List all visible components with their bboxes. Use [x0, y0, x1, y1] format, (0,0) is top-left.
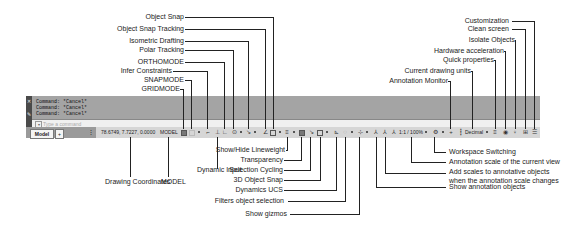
callout-snapmode: SNAPMODE [144, 76, 184, 84]
show-annotation-icon[interactable]: ⅄ [373, 129, 379, 135]
workspace-dropdown-icon[interactable] [442, 131, 444, 133]
drawing-coordinates[interactable]: 78.6749, 7.7227, 0.0000 [101, 128, 155, 137]
callout-filters-object-selection: Filters object selection [215, 197, 284, 205]
leader-line [411, 162, 446, 163]
leader-line [185, 29, 265, 30]
grip-handle-icon[interactable]: ⋮ [88, 129, 94, 135]
object-snap-dropdown-icon[interactable] [279, 131, 281, 133]
leader-line [434, 137, 435, 152]
isolate-objects-icon[interactable]: ♀ [512, 129, 518, 135]
leader-line [512, 29, 525, 30]
leader-line [191, 80, 192, 129]
isometric-drafting-icon[interactable]: ↘ [245, 129, 251, 135]
units-separator-icon: ┇ [458, 129, 464, 135]
leader-line [534, 21, 535, 129]
callout-customization: Customization [465, 17, 509, 25]
leader-line [525, 29, 526, 129]
gizmo-icon[interactable]: ⊹ [357, 129, 363, 135]
model-space-toggle[interactable]: MODEL [160, 128, 178, 137]
callout-show-annotation-objects: Show annotation objects [449, 183, 525, 191]
polar-dropdown-icon[interactable] [240, 131, 242, 133]
callout-show-hide-lineweight: Show/Hide Lineweight [216, 146, 285, 154]
callout-annotation-monitor: Annotation Monitor [389, 77, 448, 85]
callout-transparency: Transparency [240, 156, 283, 164]
leader-line [385, 137, 386, 173]
annotation-scale-value[interactable]: 1:1 / 100% [399, 128, 423, 137]
command-history-line: Command: *Cancel* [36, 111, 87, 117]
close-icon[interactable]: ✕ [27, 97, 31, 105]
leader-line [224, 62, 225, 129]
leader-line [376, 187, 446, 188]
lineweight-icon[interactable]: ≡ [284, 129, 290, 135]
leader-line [185, 62, 224, 63]
leader-line [385, 173, 446, 174]
callout-workspace-switching: Workspace Switching [449, 148, 516, 156]
tab-model[interactable]: Model [30, 129, 54, 139]
clean-screen-icon[interactable]: ⊞ [522, 129, 528, 135]
leader-line [290, 214, 360, 215]
callout-gridmode: GRIDMODE [142, 85, 181, 93]
leader-line [472, 71, 473, 129]
filter-selection-icon[interactable]: ◌ [342, 129, 348, 135]
isometric-dropdown-icon[interactable] [254, 131, 256, 133]
filter-dropdown-icon[interactable] [351, 131, 353, 133]
quick-properties-icon[interactable]: ≡ [492, 129, 498, 135]
dynamic-ucs-icon[interactable]: ⊾ [333, 129, 339, 135]
infer-constraints-icon[interactable]: ⌐ [205, 129, 211, 135]
callout-current-drawing-units: Current drawing units [404, 67, 471, 75]
leader-line [284, 160, 302, 161]
leader-line [207, 71, 208, 129]
add-layout-button[interactable]: + [55, 129, 64, 139]
callout-isometric-drafting: Isometric Drafting [129, 37, 184, 45]
dynamic-input-icon[interactable]: ⊥ [214, 129, 220, 135]
snap-mode-icon[interactable] [189, 130, 195, 136]
3d-snap-dropdown-icon[interactable] [326, 131, 328, 133]
callout-isolate-objects: Isolate Objects [469, 36, 515, 44]
units-dropdown-icon[interactable] [486, 131, 488, 133]
scale-dropdown-icon[interactable] [425, 131, 427, 133]
annotation-monitor-icon[interactable]: + [448, 129, 454, 135]
gizmo-dropdown-icon[interactable] [366, 131, 368, 133]
annotation-scale-icon[interactable]: ⅄ [391, 129, 397, 135]
leader-line [288, 201, 346, 202]
leader-line [512, 21, 534, 22]
snap-dropdown-icon[interactable] [198, 131, 200, 133]
leader-line [301, 137, 302, 161]
leader-line [411, 137, 412, 162]
wrench-icon[interactable]: ✎ [27, 110, 31, 118]
workspace-gear-icon[interactable]: ⚙ [432, 129, 438, 135]
3d-object-snap-icon[interactable] [317, 130, 323, 136]
selection-cycling-icon[interactable]: ↘ [308, 129, 314, 135]
leader-line [284, 190, 337, 191]
lineweight-dropdown-icon[interactable] [293, 131, 295, 133]
leader-line [345, 137, 346, 202]
leader-line [284, 170, 311, 171]
grid-icon[interactable] [181, 130, 187, 136]
transparency-icon[interactable] [299, 130, 305, 136]
leader-line [515, 40, 516, 129]
leader-line [376, 137, 377, 187]
callout-add-scales-line1: Add scales to annotative objects [449, 168, 549, 176]
callout-selection-cycling: Selection Cycling [229, 166, 283, 174]
callout-show-gizmos: Show gizmos [245, 210, 287, 218]
leader-line [130, 137, 131, 177]
drawing-units-value[interactable]: Decimal [465, 128, 483, 137]
callout-dynamics-ucs: Dynamics UCS [236, 186, 283, 194]
auto-scale-icon[interactable]: ⅄ [382, 129, 388, 135]
leader-line [505, 51, 506, 129]
polar-tracking-icon[interactable]: ⊙ [231, 129, 237, 135]
leader-line [310, 137, 311, 171]
leader-line [183, 89, 184, 129]
leader-line [248, 41, 249, 129]
callout-object-snap-tracking: Object Snap Tracking [117, 25, 184, 33]
object-snap-tracking-icon[interactable]: ∠ [262, 129, 268, 135]
customization-icon[interactable]: ☰ [531, 129, 537, 135]
leader-line [233, 50, 234, 129]
leader-line [273, 17, 274, 129]
object-snap-icon[interactable] [270, 130, 276, 136]
callout-model: MODEL [161, 178, 186, 186]
hardware-acceleration-icon[interactable]: ◉ [502, 129, 508, 135]
callout-infer-constraints: Infer Constraints [121, 67, 172, 75]
ortho-icon[interactable]: ∟ [222, 129, 228, 135]
leader-line [185, 17, 273, 18]
